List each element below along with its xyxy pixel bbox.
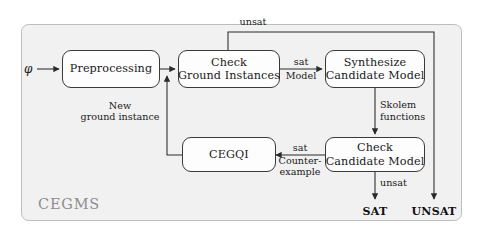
node-cegqi[interactable]: CEGQI xyxy=(182,137,276,172)
edge-label-skolem-line-1: Skolem xyxy=(380,100,416,111)
node-synthesize-candidate-model-line-1: Synthesize xyxy=(344,56,406,69)
node-cegqi-line-1: CEGQI xyxy=(209,148,249,161)
edge-label-skolem-line-2: functions xyxy=(380,112,425,123)
edge-label-sat-counterexample-line-1: sat xyxy=(293,143,308,154)
edge-label-unsat-bottom: unsat xyxy=(380,178,407,189)
node-check-candidate-model[interactable]: Check Candidate Model xyxy=(325,137,425,172)
node-check-ground-instances[interactable]: Check Ground Instances xyxy=(178,50,280,88)
node-check-ground-instances-line-1: Check xyxy=(211,56,247,69)
edge-label-new-ground-instance-line-2: ground instance xyxy=(80,112,159,123)
edge-label-sat: sat xyxy=(294,57,309,68)
diagram-canvas: Preprocessing Check Ground Instances Syn… xyxy=(0,0,478,246)
input-formula-symbol: φ xyxy=(24,62,32,76)
node-check-ground-instances-line-2: Ground Instances xyxy=(178,69,280,82)
cegms-container-label: CEGMS xyxy=(38,196,100,212)
node-preprocessing-line-1: Preprocessing xyxy=(70,62,152,75)
unsat-terminal: UNSAT xyxy=(411,205,456,218)
node-check-candidate-model-line-1: Check xyxy=(357,141,393,154)
node-check-candidate-model-line-2: Candidate Model xyxy=(326,155,425,168)
edge-label-unsat-top: unsat xyxy=(240,17,267,28)
node-synthesize-candidate-model-line-2: Candidate Model xyxy=(326,69,425,82)
edge-label-sat-counterexample-line-3: example xyxy=(280,167,321,178)
sat-terminal: SAT xyxy=(363,205,388,218)
node-synthesize-candidate-model[interactable]: Synthesize Candidate Model xyxy=(325,50,425,88)
node-preprocessing[interactable]: Preprocessing xyxy=(62,50,160,88)
edge-label-model: Model xyxy=(286,71,317,82)
